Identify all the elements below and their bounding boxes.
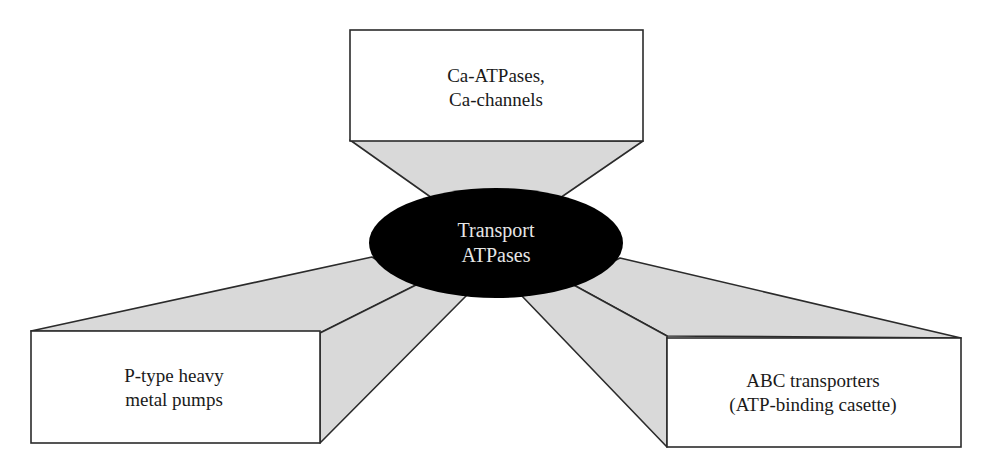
node-bottom-left-label-line1: P-type heavy xyxy=(124,365,224,386)
node-bottom-right-label-line2: (ATP-binding casette) xyxy=(729,394,896,416)
center-hub-label-line1: Transport xyxy=(457,219,534,242)
node-box-bottom-left xyxy=(31,331,320,443)
node-top-label-line1: Ca-ATPases, xyxy=(447,65,545,86)
node-bottom-right-label-line1: ABC transporters xyxy=(746,370,880,391)
node-box-bottom-right xyxy=(667,338,961,447)
node-top-label-line2: Ca-channels xyxy=(449,89,543,110)
center-hub xyxy=(369,188,623,298)
node-bottom-left-label-line2: metal pumps xyxy=(125,389,223,410)
center-hub-label-line2: ATPases xyxy=(462,244,531,266)
transport-atpases-diagram: Transport ATPases Ca-ATPases, Ca-channel… xyxy=(0,0,992,467)
